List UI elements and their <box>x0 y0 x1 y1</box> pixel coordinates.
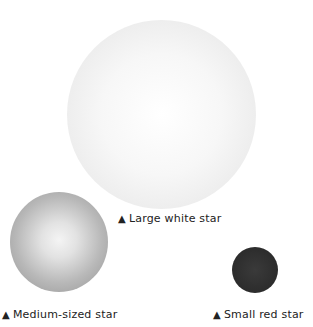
large-star-label: Large white star <box>129 212 222 225</box>
large-white-star <box>67 20 256 209</box>
medium-sized-star <box>10 192 108 292</box>
small-star-caption: ▲Small red star <box>213 308 304 321</box>
medium-star-label: Medium-sized star <box>13 308 117 321</box>
triangle-marker-icon: ▲ <box>2 309 10 320</box>
small-star-label: Small red star <box>224 308 304 321</box>
small-red-star <box>232 247 278 293</box>
large-star-caption: ▲Large white star <box>118 212 221 225</box>
triangle-marker-icon: ▲ <box>213 309 221 320</box>
medium-star-caption: ▲Medium-sized star <box>2 308 117 321</box>
triangle-marker-icon: ▲ <box>118 213 126 224</box>
